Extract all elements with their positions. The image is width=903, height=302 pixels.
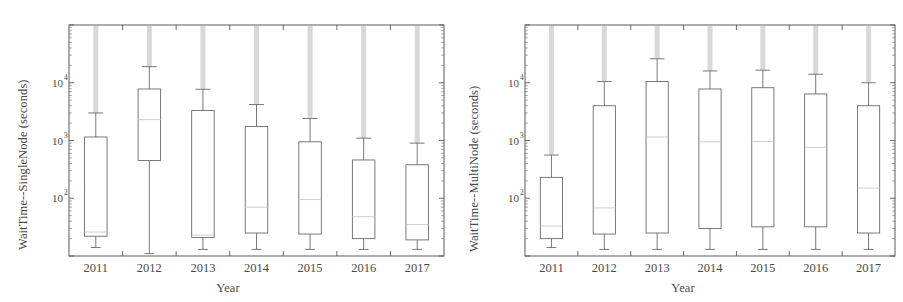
y-tick-label: 10 bbox=[508, 192, 520, 204]
boxplot-figure: 1021031042011201220132014201520162017 Wa… bbox=[0, 0, 903, 302]
box bbox=[857, 106, 879, 233]
x-tick-label: 2011 bbox=[539, 261, 564, 275]
x-tick-label: 2015 bbox=[298, 261, 323, 275]
y-tick-exponent: 3 bbox=[520, 131, 524, 140]
x-tick-label: 2017 bbox=[856, 261, 881, 275]
y-tick-exponent: 2 bbox=[520, 188, 524, 197]
plot-area-multinode: 1021031042011201220132014201520162017 bbox=[451, 0, 902, 302]
y-tick-exponent: 2 bbox=[64, 188, 68, 197]
box bbox=[646, 82, 668, 233]
x-tick-label: 2012 bbox=[137, 261, 162, 275]
box bbox=[540, 177, 562, 238]
panel-singlenode: 1021031042011201220132014201520162017 Wa… bbox=[0, 0, 451, 302]
box bbox=[406, 165, 429, 240]
x-tick-label: 2012 bbox=[592, 261, 617, 275]
x-tick-label: 2014 bbox=[244, 261, 270, 275]
x-tick-label: 2016 bbox=[351, 261, 376, 275]
y-tick-exponent: 3 bbox=[64, 131, 68, 140]
box bbox=[593, 106, 615, 234]
box bbox=[805, 94, 827, 227]
box bbox=[138, 89, 161, 161]
x-tick-label: 2013 bbox=[190, 261, 215, 275]
y-tick-label: 10 bbox=[508, 135, 520, 147]
box bbox=[85, 137, 108, 236]
y-tick-exponent: 4 bbox=[64, 73, 68, 82]
y-tick-label: 10 bbox=[508, 77, 520, 89]
x-tick-label: 2014 bbox=[698, 261, 724, 275]
box bbox=[352, 160, 375, 239]
y-axis-label-singlenode: WaitTime--SingleNode (seconds) bbox=[16, 79, 31, 250]
box bbox=[245, 126, 268, 233]
box bbox=[699, 89, 721, 228]
x-axis-label-multinode: Year bbox=[671, 281, 694, 296]
x-axis-label-singlenode: Year bbox=[216, 281, 239, 296]
box bbox=[752, 88, 774, 227]
y-tick-label: 10 bbox=[52, 77, 64, 89]
x-tick-label: 2015 bbox=[750, 261, 775, 275]
y-tick-label: 10 bbox=[52, 135, 64, 147]
y-axis-label-multinode: WaitTime--MultiNode (seconds) bbox=[467, 86, 482, 252]
y-tick-exponent: 4 bbox=[520, 73, 524, 82]
x-tick-label: 2013 bbox=[645, 261, 670, 275]
x-tick-label: 2016 bbox=[803, 261, 828, 275]
box bbox=[192, 111, 215, 238]
plot-area-singlenode: 1021031042011201220132014201520162017 bbox=[0, 0, 451, 302]
box bbox=[299, 142, 322, 234]
x-tick-label: 2011 bbox=[84, 261, 109, 275]
panel-multinode: 1021031042011201220132014201520162017 Wa… bbox=[451, 0, 902, 302]
y-tick-label: 10 bbox=[52, 192, 64, 204]
x-tick-label: 2017 bbox=[405, 261, 430, 275]
